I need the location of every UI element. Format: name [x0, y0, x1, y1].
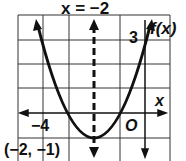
y-axis-label: f(x)	[150, 20, 176, 37]
vertex-label: (−2, −1)	[4, 142, 60, 158]
left-arrow-icon	[33, 19, 42, 31]
axis-of-symmetry-label: x = −2	[61, 0, 109, 17]
origin-label: O	[125, 118, 137, 134]
x-axis-label: x	[155, 93, 164, 109]
x-tick-label: −4	[31, 118, 49, 134]
y-tick-label: 3	[129, 30, 138, 46]
